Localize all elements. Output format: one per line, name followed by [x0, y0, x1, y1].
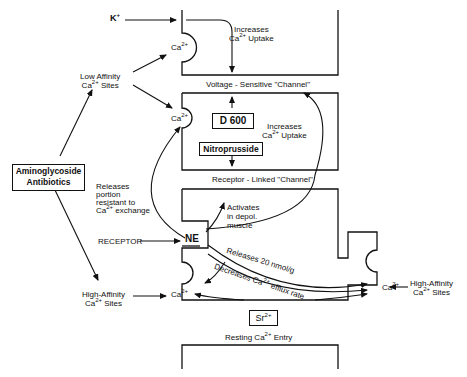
activates-label: Activates in depol. muscle: [227, 203, 259, 230]
receptor-label: RECEPTOR: [98, 237, 142, 246]
releases-portion-label: Releases portion resistant to Ca2+ excha…: [96, 183, 150, 215]
ca-ion-top: Ca2+: [171, 43, 188, 52]
k-plus-label: K+: [110, 14, 120, 23]
resting-entry-label: Resting Ca2+ Entry: [225, 333, 292, 342]
ca-ion-voltage: Ca2+: [171, 114, 188, 123]
d600-box: D 600: [212, 113, 254, 129]
ca-ion-right: Ca2+: [382, 283, 399, 292]
ca-ion-bottom: Ca2+: [171, 290, 188, 299]
ne-label: NE: [185, 234, 199, 243]
high-affinity-sites-left-label: High-Affinity Ca2+ Sites: [82, 290, 125, 308]
increases-uptake-top-label: Increases Ca2+ Uptake: [229, 25, 274, 43]
aminoglycoside-antibiotics-box: Aminoglycoside Antibiotics: [12, 164, 85, 191]
strontium-box: Sr2+: [249, 310, 278, 326]
voltage-sensitive-channel-label: Voltage - Sensitive "Channel": [206, 80, 310, 89]
receptor-linked-channel-label: Receptor - Linked "Channel": [212, 175, 313, 184]
high-affinity-sites-right-label: High-Affinity Ca2+ Sites: [410, 279, 453, 297]
low-affinity-sites-label: Low Affinity Ca2+ Sites: [80, 72, 120, 90]
increases-uptake-mid-label: Increases Ca2+ Uptake: [262, 122, 307, 140]
nitroprusside-box: Nitroprusside: [199, 142, 263, 156]
